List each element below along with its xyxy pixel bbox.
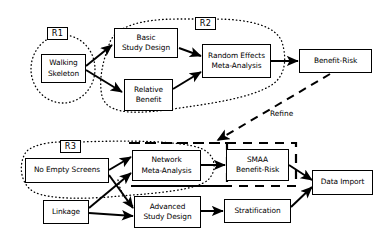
node-relative-benefit-line2: Benefit [136,95,162,106]
node-stratification[interactable]: Stratification [224,199,291,223]
node-walking-skeleton[interactable]: Walking Skeleton [41,54,86,83]
node-smaa-benefit-risk-line1: SMAA [247,155,268,166]
node-benefit-risk-line1: Benefit-Risk [314,56,357,67]
node-smaa-benefit-risk-line2: Benefit-Risk [236,165,279,176]
region-label-r1: R1 [47,27,68,40]
node-relative-benefit[interactable]: Relative Benefit [124,79,173,111]
node-random-effects-meta-analysis[interactable]: Random Effects Meta-Analysis [202,44,271,78]
node-linkage-line1: Linkage [52,207,80,218]
edge-relative-benefit-to-random-effects [173,72,201,89]
node-walking-skeleton-line2: Skeleton [48,69,79,80]
node-linkage[interactable]: Linkage [43,200,89,224]
node-network-meta-analysis-line2: Meta-Analysis [141,166,191,177]
node-relative-benefit-line1: Relative [134,85,163,96]
edge-stratification-to-data-import [291,187,312,207]
node-basic-study-design-line1: Basic [136,33,155,44]
node-data-import[interactable]: Data Import [312,170,373,195]
node-network-meta-analysis[interactable]: Network Meta-Analysis [132,150,201,181]
edge-refine-dashed [218,74,330,140]
region-label-r3: R3 [60,140,81,153]
region-label-r1-text: R1 [52,29,63,37]
node-advanced-study-design[interactable]: Advanced Study Design [134,196,201,228]
edge-walking-skeleton-to-basic-study-design [86,45,112,66]
edge-smaa-benefit-risk-to-data-import [289,165,312,180]
edge-no-empty-screens-to-advanced-study-design [109,175,133,208]
edge-walking-skeleton-to-relative-benefit [86,70,122,92]
node-random-effects-meta-analysis-line1: Random Effects [208,51,265,62]
dotted-link-linkage-advanced [118,180,133,206]
node-advanced-study-design-line1: Advanced [150,202,186,213]
node-no-empty-screens-line1: No Empty Screens [34,165,100,176]
node-no-empty-screens[interactable]: No Empty Screens [25,158,109,183]
edge-label-refine: Refine [270,110,293,118]
region-label-r3-text: R3 [65,142,76,150]
region-label-r2: R2 [195,17,216,30]
node-basic-study-design[interactable]: Basic Study Design [114,28,178,58]
node-walking-skeleton-line1: Walking [49,58,77,69]
node-network-meta-analysis-line1: Network [151,155,181,166]
edge-no-empty-screens-to-network-meta-analysis [109,157,131,170]
node-stratification-line1: Stratification [234,206,280,217]
node-data-import-line1: Data Import [321,177,364,188]
edge-linkage-to-advanced-study-design [89,213,133,216]
node-random-effects-meta-analysis-line2: Meta-Analysis [211,61,261,72]
node-advanced-study-design-line2: Study Design [143,212,191,223]
node-benefit-risk[interactable]: Benefit-Risk [299,49,372,73]
node-basic-study-design-line2: Study Design [122,43,170,54]
edge-basic-study-design-to-random-effects [179,48,201,56]
diagram-canvas: R1 R2 R3 Walking Skeleton Basic Study De… [0,0,392,244]
node-smaa-benefit-risk[interactable]: SMAA Benefit-Risk [226,149,289,181]
region-label-r2-text: R2 [200,19,211,27]
